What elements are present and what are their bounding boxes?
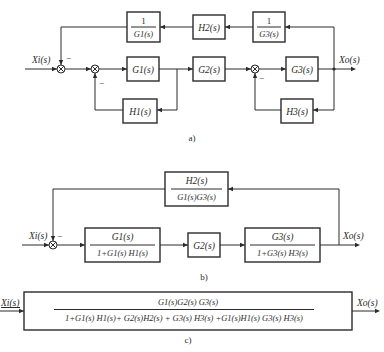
arrow-icon bbox=[86, 67, 91, 71]
arrow-icon bbox=[44, 243, 49, 247]
arrow-icon bbox=[281, 67, 286, 71]
block-inv-g1-num: 1 bbox=[141, 16, 146, 26]
summing-junction-3 bbox=[251, 65, 259, 73]
output-label-c: Xo(s) bbox=[356, 298, 378, 309]
arrow-icon bbox=[240, 243, 245, 247]
block-loop1-num: G1(s) bbox=[112, 232, 134, 243]
input-label-a: Xi(s) bbox=[31, 55, 50, 66]
arrow-icon bbox=[188, 67, 193, 71]
caption-c: c) bbox=[185, 335, 192, 345]
minus-sign-sum2: − bbox=[99, 78, 104, 88]
summing-junction-b bbox=[49, 241, 57, 249]
arrow-icon bbox=[253, 73, 257, 78]
diagram-c: Xi(s) G1(s)G2(s) G3(s) 1+G1(s) H1(s)+ G2… bbox=[0, 292, 380, 345]
minus-sign-sum3: − bbox=[259, 73, 264, 83]
arrow-icon bbox=[285, 25, 290, 29]
arrow-icon bbox=[51, 236, 55, 241]
arrow-icon bbox=[246, 67, 251, 71]
output-label-a: Xo(s) bbox=[338, 55, 360, 66]
block-h3-label: H3(s) bbox=[285, 107, 308, 118]
output-label-b: Xo(s) bbox=[342, 231, 364, 242]
block-feedback-num: H2(s) bbox=[185, 176, 208, 187]
arrow-icon bbox=[183, 243, 188, 247]
block-overall-num: G1(s)G2(s) G3(s) bbox=[158, 297, 218, 307]
input-label-b: Xi(s) bbox=[28, 231, 47, 242]
block-g2-b-label: G2(s) bbox=[193, 241, 215, 252]
arrow-icon bbox=[157, 108, 162, 112]
minus-sign-sum-b: − bbox=[57, 231, 62, 241]
summing-junction-2 bbox=[91, 65, 99, 73]
arrow-icon bbox=[228, 187, 233, 191]
arrow-icon bbox=[93, 73, 97, 78]
block-g3-label: G3(s) bbox=[291, 65, 313, 76]
block-h2-label: H2(s) bbox=[197, 23, 220, 34]
summing-junction-1 bbox=[57, 65, 65, 73]
block-loop1-den: 1+G1(s) H1(s) bbox=[97, 248, 148, 258]
arrow-icon bbox=[19, 309, 24, 313]
diagram-b: Xi(s) − G1(s) 1+G1(s) H1(s) G2(s) G3(s) … bbox=[22, 172, 364, 282]
caption-b: b) bbox=[200, 272, 208, 282]
arrow-icon bbox=[160, 25, 165, 29]
minus-sign-sum1: − bbox=[66, 53, 71, 63]
arrow-icon bbox=[355, 243, 360, 247]
arrow-icon bbox=[375, 309, 380, 313]
block-inv-g3-den: G3(s) bbox=[259, 29, 279, 39]
arrow-icon bbox=[122, 67, 127, 71]
block-diagram-canvas: Xi(s) − − G1(s) H1(s) bbox=[0, 0, 384, 352]
arrow-icon bbox=[80, 243, 85, 247]
arrow-icon bbox=[59, 60, 63, 65]
block-loop3-den: 1+G3(s) H3(s) bbox=[257, 248, 308, 258]
arrow-icon bbox=[351, 67, 356, 71]
block-loop3-num: G3(s) bbox=[272, 232, 294, 243]
arrow-icon bbox=[313, 108, 318, 112]
diagram-a: Xi(s) − − G1(s) H1(s) bbox=[25, 12, 360, 143]
arrow-icon bbox=[52, 67, 57, 71]
block-g2-label: G2(s) bbox=[198, 65, 220, 76]
block-h1-label: H1(s) bbox=[128, 107, 151, 118]
block-g1-label: G1(s) bbox=[132, 65, 154, 76]
block-overall-den: 1+G1(s) H1(s)+ G2(s)H2(s) + G3(s) H3(s) … bbox=[65, 313, 303, 323]
block-inv-g3-num: 1 bbox=[267, 16, 272, 26]
block-feedback-den: G1(s)G3(s) bbox=[177, 192, 216, 202]
block-inv-g1-den: G1(s) bbox=[134, 29, 154, 39]
arrow-icon bbox=[225, 25, 230, 29]
caption-a: a) bbox=[189, 133, 196, 143]
